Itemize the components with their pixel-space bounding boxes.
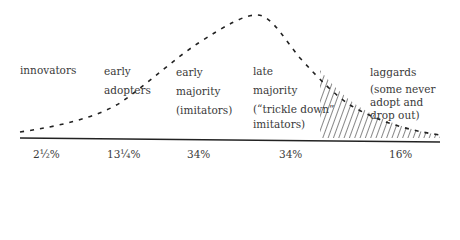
label-laggards: laggards (some never adopt and drop out) [370,66,435,122]
pct-late-majority: 34% [279,148,302,160]
pct-early-adopters: 13¼% [107,148,141,160]
label-early-majority: early majority (imitators) [176,64,232,119]
pct-early-majority: 34% [187,148,210,160]
label-early-adopters: early adopters [104,63,151,99]
baseline-axis [20,138,440,142]
label-innovators: innovators [20,62,76,79]
pct-innovators: 2½% [33,148,60,160]
label-late-majority: late majority (“trickle down” imitators) [253,64,334,132]
pct-laggards: 16% [389,148,412,160]
